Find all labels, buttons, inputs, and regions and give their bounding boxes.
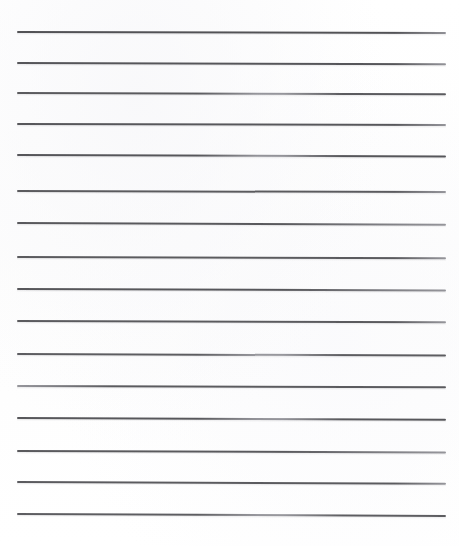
ruled-line <box>17 190 446 193</box>
ruled-line <box>17 256 446 259</box>
ruled-line-stroke <box>17 123 446 126</box>
ruled-line-stroke <box>17 417 446 421</box>
ruled-line <box>17 513 446 517</box>
ruled-line-stroke <box>17 385 446 388</box>
ruled-line-stroke <box>17 320 446 323</box>
ruled-line-stroke <box>17 62 446 65</box>
ruled-line-stroke <box>17 256 446 259</box>
ruled-line <box>17 320 446 323</box>
ruled-line-stroke <box>17 481 446 484</box>
ruled-line <box>17 385 446 388</box>
paper-sheet <box>0 0 459 546</box>
ruled-lines-layer <box>0 0 459 546</box>
ruled-line <box>17 123 446 126</box>
ruled-line-stroke <box>17 513 446 517</box>
ruled-line <box>17 62 446 65</box>
ruled-line-stroke <box>17 31 446 34</box>
ruled-line <box>17 31 446 34</box>
ruled-line-stroke <box>17 222 446 225</box>
ruled-line-stroke <box>17 450 446 453</box>
ruled-line <box>17 417 446 421</box>
ruled-line <box>17 222 446 225</box>
ruled-line <box>17 450 446 453</box>
ruled-line-stroke <box>17 190 446 193</box>
ruled-line-stroke <box>17 288 446 291</box>
ruled-line-stroke <box>17 353 446 356</box>
ruled-line-stroke <box>17 92 446 95</box>
ruled-line <box>17 92 446 95</box>
ruled-line <box>17 481 446 484</box>
ruled-line <box>17 154 446 157</box>
ruled-line-stroke <box>17 154 446 157</box>
ruled-line <box>17 353 446 356</box>
ruled-line <box>17 288 446 291</box>
